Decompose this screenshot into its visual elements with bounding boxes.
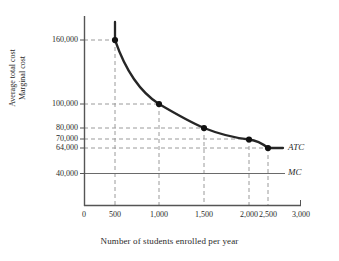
- xtick-label-3000: 3,000: [281, 210, 321, 219]
- xtick-label-1500: 1,500: [184, 210, 224, 219]
- point-1500-80000: [201, 125, 207, 131]
- ytick-label-64000: 64,000: [24, 143, 78, 152]
- y-axis-title-line2: Marginal cost: [18, 18, 28, 138]
- point-2500-64000: [265, 145, 271, 151]
- ytick-label-100000: 100,000: [24, 99, 78, 108]
- y-tick-marks: [80, 40, 84, 174]
- xtick-label-1000: 1,000: [139, 210, 179, 219]
- x-axis-title: Number of students enrolled per year: [0, 236, 339, 246]
- guide-lines-horizontal: [84, 40, 268, 148]
- ytick-label-70000: 70,000: [24, 134, 78, 143]
- atc-data-points: [112, 37, 271, 151]
- point-2000-70000: [246, 136, 252, 142]
- y-axis-title: Average total cost Marginal cost: [8, 18, 28, 138]
- ytick-label-160000: 160,000: [24, 35, 78, 44]
- point-500-160000: [112, 37, 118, 43]
- atc-curve-label: ATC: [288, 142, 304, 152]
- point-1000-100000: [156, 101, 162, 107]
- atc-curve: [115, 22, 283, 148]
- ytick-label-40000: 40,000: [24, 169, 78, 178]
- mc-curve-label: MC: [288, 167, 302, 177]
- cost-curve-chart: 160,000 100,000 80,000 70,000 64,000 40,…: [0, 0, 339, 261]
- y-axis-title-line1: Average total cost: [8, 18, 18, 138]
- xtick-label-500: 500: [95, 210, 135, 219]
- ytick-label-80000: 80,000: [24, 123, 78, 132]
